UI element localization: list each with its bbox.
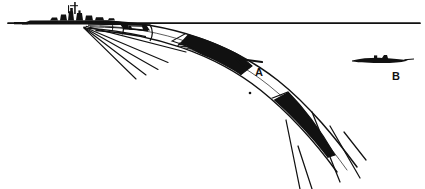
- submarine-silhouette: [352, 55, 414, 63]
- beam-segment-a: [169, 30, 252, 80]
- label-a: A: [255, 66, 263, 78]
- beam-center-dot: [249, 92, 252, 95]
- label-b: B: [392, 70, 400, 82]
- figure-container: A B: [0, 0, 425, 189]
- diagram-canvas: A B: [0, 0, 425, 189]
- curved-search-beam: [96, 22, 357, 172]
